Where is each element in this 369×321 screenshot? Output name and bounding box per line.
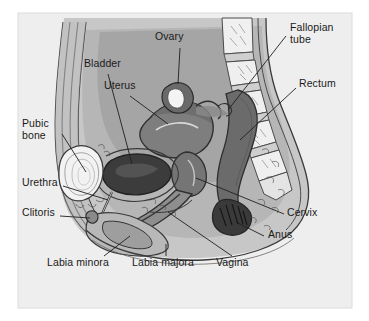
label-anus: Anus (268, 229, 292, 241)
label-ovary: Ovary (155, 31, 184, 43)
label-cervix: Cervix (287, 207, 317, 219)
label-pubic-bone-line2: bone (22, 130, 46, 142)
label-urethra: Urethra (22, 177, 58, 189)
label-fallopian-tube-line2: tube (290, 34, 311, 46)
label-pubic-bone-line1: Pubic (22, 118, 49, 130)
anatomy-figure: Ovary Fallopian tube Bladder Uterus Rect… (0, 0, 369, 321)
label-labia-majora: Labia majora (132, 257, 194, 269)
anatomy-illustration (0, 0, 369, 321)
label-uterus: Uterus (104, 80, 136, 92)
ovary-highlight (168, 89, 184, 108)
label-labia-minora: Labia minora (47, 257, 109, 269)
label-fallopian-tube-line1: Fallopian (290, 22, 334, 34)
clitoris (86, 211, 98, 223)
label-clitoris: Clitoris (22, 207, 55, 219)
label-rectum: Rectum (299, 78, 336, 90)
label-bladder: Bladder (84, 58, 121, 70)
label-vagina: Vagina (216, 257, 249, 269)
